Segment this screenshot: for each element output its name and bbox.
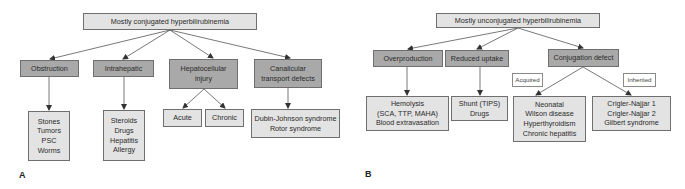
- leaf-intrahepatic-causes: Steroids Drugs Hepatitis Allergy: [103, 110, 145, 161]
- leaf-acute: Acute: [163, 109, 202, 127]
- leaf-chronic: Chronic: [205, 109, 244, 127]
- node-conjugation-defect: Conjugation defect: [548, 49, 619, 67]
- node-canalicular-transport-defects: Canalicular transport defects: [254, 59, 322, 88]
- node-hepatocellular-injury: Hepatocellular injury: [169, 59, 238, 89]
- root-node-conjugated: Mostly conjugated hyperbilirubinemia: [83, 13, 257, 30]
- leaf-acquired-causes: Neonatal Wilson disease Hyperthyroidism …: [513, 96, 586, 142]
- node-intrahepatic: Intrahepatic: [93, 60, 154, 77]
- root-node-unconjugated: Mostly unconjugated hyperbilirubinemia: [436, 13, 600, 28]
- edge-label-inherited: Inherited: [623, 73, 656, 87]
- leaf-overproduction-causes: Hemolysis (SCA, TTP, MAHA) Blood extrava…: [366, 96, 449, 131]
- panel-letter-b: B: [365, 169, 372, 179]
- node-obstruction: Obstruction: [20, 60, 79, 77]
- panel-letter-a: A: [19, 170, 26, 180]
- leaf-reduced-uptake-causes: Shunt (TIPS) Drugs: [451, 96, 508, 121]
- leaf-obstruction-causes: Stones Tumors PSC Worms: [28, 111, 70, 161]
- node-overproduction: Overproduction: [373, 50, 443, 67]
- leaf-inherited-causes: Crigler-Najjar 1 Crigler-Najjar 2 Gilber…: [592, 96, 671, 131]
- leaf-canalicular-syndromes: Dubin-Johnson syndrome Rotor syndrome: [251, 109, 340, 138]
- node-reduced-uptake: Reduced uptake: [445, 50, 509, 67]
- edge-label-acquired: Acquired: [512, 73, 543, 87]
